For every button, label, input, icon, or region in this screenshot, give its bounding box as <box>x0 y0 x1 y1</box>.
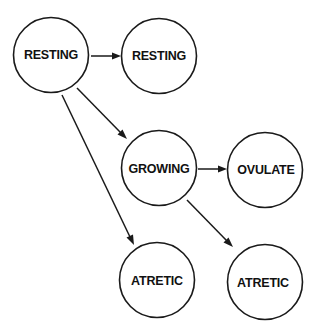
arrow-head-icon <box>127 235 135 246</box>
node-growing: GROWING <box>122 131 197 206</box>
node-label: GROWING <box>128 162 189 176</box>
node-resting-start: RESTING <box>14 18 89 93</box>
arrow-head-icon <box>218 166 227 173</box>
edge-growing-to-atretic <box>187 200 233 247</box>
node-ovulate: OVULATE <box>228 133 303 208</box>
edge-resting-to-growing <box>77 88 127 139</box>
arrow-head-icon <box>112 53 121 60</box>
node-resting-end: RESTING <box>122 19 197 94</box>
node-atretic-from-growing: ATRETIC <box>228 245 303 320</box>
edge-line <box>77 88 121 133</box>
edge-growing-to-ovulate <box>198 166 227 173</box>
node-label: RESTING <box>132 49 186 63</box>
node-label: OVULATE <box>237 163 294 177</box>
edge-resting-to-resting <box>91 53 121 60</box>
node-atretic-from-resting: ATRETIC <box>120 243 195 318</box>
follicle-state-diagram: RESTING RESTING GROWING OVULATE ATRETIC … <box>0 0 321 333</box>
edge-line <box>187 200 227 241</box>
node-label: ATRETIC <box>237 276 289 290</box>
node-label: RESTING <box>24 48 78 62</box>
edge-line <box>62 95 130 237</box>
node-label: ATRETIC <box>131 274 183 288</box>
